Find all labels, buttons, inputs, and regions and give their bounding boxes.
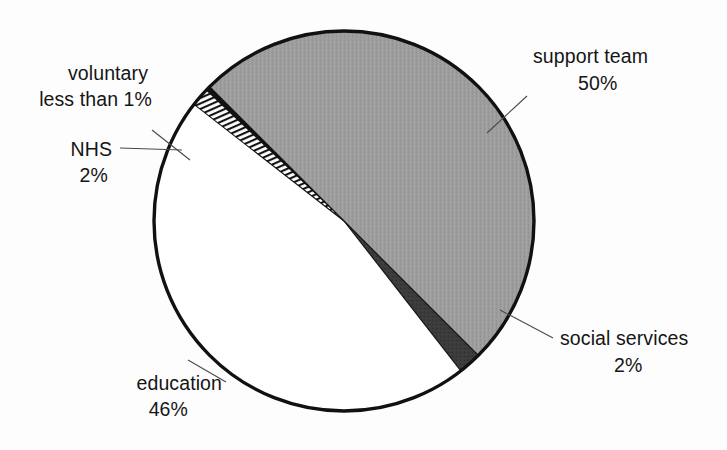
label-social-services-name: social services [560, 327, 688, 349]
label-education-percent: 46% [149, 398, 188, 420]
label-voluntary-name: voluntary [68, 62, 148, 84]
label-support-team-percent: 50% [578, 72, 617, 94]
pie-chart-canvas: support team 50% voluntary less than 1% … [0, 0, 727, 450]
label-support-team-name: support team [533, 45, 648, 67]
label-nhs-name: NHS [71, 138, 112, 160]
label-nhs-percent: 2% [80, 164, 108, 186]
label-voluntary-percent: less than 1% [39, 88, 152, 110]
label-education-name: education [137, 372, 222, 394]
pie-chart-figure: support team 50% voluntary less than 1% … [0, 0, 727, 450]
label-social-services-percent: 2% [614, 354, 642, 376]
